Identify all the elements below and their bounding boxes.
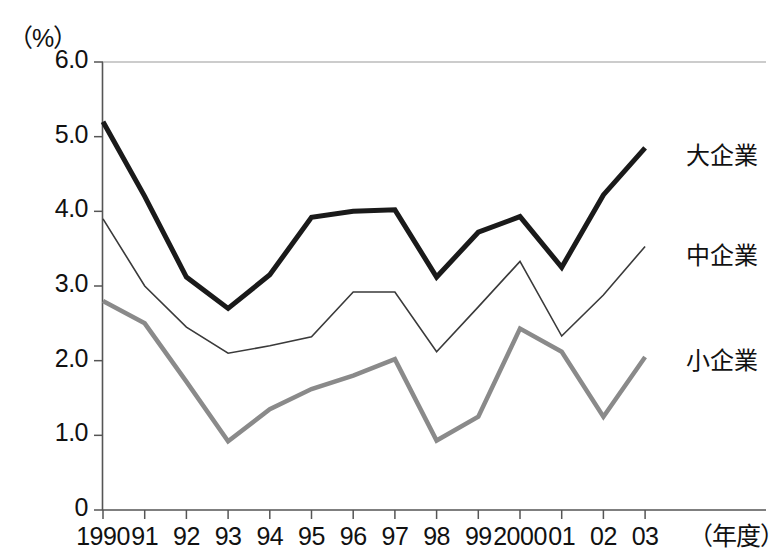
y-tick-label: 1.0: [0, 418, 88, 447]
y-tick-label: 0: [0, 493, 88, 522]
series-line-0: [103, 122, 645, 309]
y-tick-label: 4.0: [0, 194, 88, 223]
line-chart: （%） 01.02.03.04.05.06.0 1990919293949596…: [0, 0, 780, 556]
x-axis-unit-label: （年度）: [688, 516, 780, 552]
series-label-2: 小企業: [686, 341, 758, 376]
y-tick-label: 5.0: [0, 120, 88, 149]
chart-plot-area: [0, 0, 780, 556]
y-tick-label: 3.0: [0, 269, 88, 298]
series-line-1: [103, 219, 645, 353]
series-label-0: 大企業: [686, 136, 758, 171]
y-tick-label: 6.0: [0, 45, 88, 74]
series-label-1: 中企業: [686, 236, 758, 271]
series-line-2: [103, 301, 645, 441]
y-tick-label: 2.0: [0, 344, 88, 373]
x-tick-label: 03: [600, 522, 690, 551]
